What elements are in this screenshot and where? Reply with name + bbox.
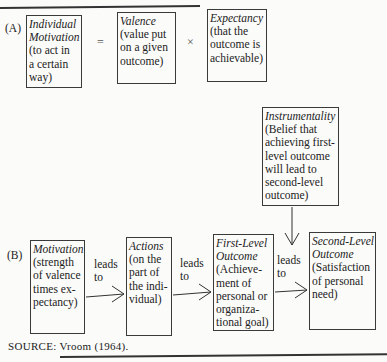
arrow-right-icon xyxy=(86,286,124,302)
arrow-right-icon xyxy=(275,282,307,298)
arrows-layer xyxy=(0,0,387,362)
arrow-right-icon xyxy=(173,284,211,300)
source-caption: SOURCE: Vroom (1964). xyxy=(8,340,129,353)
arrow-down-icon xyxy=(285,207,299,245)
